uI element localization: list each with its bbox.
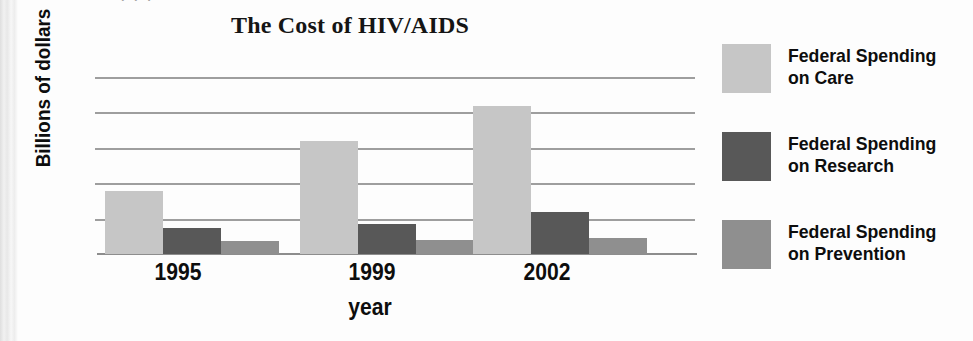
bar-1995-research xyxy=(163,228,221,254)
scan-edge-artifact xyxy=(0,0,18,341)
gridline-10 xyxy=(105,77,695,79)
bar-1999-prevention xyxy=(416,240,474,254)
x-tick-label-1999: 1999 xyxy=(319,259,425,284)
bar-1995-care xyxy=(105,191,163,254)
clipped-header-text: · · · xyxy=(0,0,973,7)
legend-label-care-line1: Federal Spending xyxy=(788,45,936,66)
legend-item-care: Federal Spendingon Care xyxy=(722,44,947,93)
bar-1999-research xyxy=(358,224,416,254)
y-tick-stub-10 xyxy=(95,77,106,79)
bar-2002-prevention xyxy=(589,238,647,254)
legend-label-research: Federal Spendingon Research xyxy=(788,132,936,178)
x-tick-label-2002: 2002 xyxy=(494,259,600,284)
bar-2002-research xyxy=(531,212,589,254)
bar-1995-prevention xyxy=(221,241,279,254)
legend-swatch-care xyxy=(722,44,771,93)
legend-item-research: Federal Spendingon Research xyxy=(722,132,947,181)
bar-1999-care xyxy=(300,141,358,254)
legend-swatch-research xyxy=(722,132,771,181)
gridline-8 xyxy=(105,112,695,114)
legend-label-research-line2: on Research xyxy=(788,155,894,176)
plot-area xyxy=(105,77,695,254)
gridline-4 xyxy=(105,183,695,185)
y-tick-stub-4 xyxy=(95,183,106,185)
y-tick-stub-6 xyxy=(95,148,106,150)
legend-item-prevention: Federal Spendingon Prevention xyxy=(722,220,947,269)
clipped-header-text-line: · · · xyxy=(120,0,153,7)
legend-label-prevention-line2: on Prevention xyxy=(788,243,906,264)
legend-label-prevention-line1: Federal Spending xyxy=(788,221,936,242)
x-axis-title: year xyxy=(317,293,423,321)
y-axis-title: Billions of dollars xyxy=(31,0,55,192)
legend-label-care: Federal Spendingon Care xyxy=(788,44,936,90)
gridline-6 xyxy=(105,148,695,150)
legend-label-research-line1: Federal Spending xyxy=(788,133,936,154)
legend-label-care-line2: on Care xyxy=(788,67,854,88)
chart-title: The Cost of HIV/AIDS xyxy=(0,12,700,39)
legend-label-prevention: Federal Spendingon Prevention xyxy=(788,220,936,266)
legend-swatch-prevention xyxy=(722,220,771,269)
bar-2002-care xyxy=(473,106,531,254)
gridline-2 xyxy=(105,219,695,221)
y-tick-stub-8 xyxy=(95,112,106,114)
x-tick-label-1995: 1995 xyxy=(125,259,231,284)
